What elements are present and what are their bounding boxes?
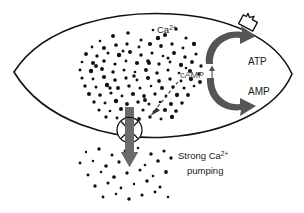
calcium-ion-dot — [156, 36, 160, 40]
calcium-ion-dot — [97, 108, 100, 111]
calcium-ion-dot — [116, 117, 119, 120]
calcium-ion-dot — [134, 71, 137, 74]
calcium-ion-dot — [154, 191, 157, 194]
calcium-ion-dot — [115, 193, 118, 196]
calcium-ion-dot — [144, 164, 147, 167]
calcium-ion-dot — [157, 79, 161, 83]
calcium-ion-dot — [169, 102, 173, 106]
calcium-ion-dot — [166, 68, 169, 71]
calcium-ion-dot — [92, 160, 95, 163]
calcium-ion-dot — [186, 93, 190, 97]
calcium-ion-dot — [159, 44, 163, 48]
calcium-ion-dot — [100, 67, 104, 71]
calcium-ion-dot — [114, 43, 118, 47]
calcium-ion-dot — [169, 61, 172, 64]
calcium-ion-dot — [102, 196, 105, 199]
calcium-ion-dot — [111, 34, 115, 38]
calcium-ion-dot — [125, 102, 129, 106]
calcium-ion-dot — [155, 71, 159, 75]
calcium-ion-dot — [111, 70, 114, 73]
calcium-ion-dot — [110, 153, 113, 156]
pumping-label-line2: pumping — [187, 165, 223, 176]
calcium-ion-dot — [158, 185, 161, 188]
cell-membrane-outline — [14, 14, 292, 138]
calcium-ion-dot — [166, 56, 169, 59]
calcium-ion-dot — [104, 164, 108, 168]
calcium-ion-dot — [168, 77, 171, 80]
calcium-ion-dot — [128, 50, 132, 54]
calcium-ion-dot — [147, 61, 151, 65]
calcium-ion-dot — [136, 79, 139, 82]
calcium-ion-dot — [104, 115, 107, 118]
calcium-ion-dot — [174, 109, 178, 113]
cell-signaling-diagram: Ca2+ ATP AMP cAMP — [0, 0, 304, 213]
calcium-ion-dot — [148, 42, 152, 46]
calcium-ion-dot — [167, 196, 170, 199]
camp-label: cAMP — [180, 70, 204, 80]
calcium-ion-dot — [102, 59, 106, 63]
calcium-ion-dot — [98, 93, 102, 97]
atp-label: ATP — [248, 56, 267, 67]
calcium-ion-dot — [190, 60, 194, 64]
calcium-ion-dot — [113, 78, 117, 82]
calcium-ion-dot — [81, 61, 84, 64]
calcium-ion-dot — [198, 80, 202, 84]
calcium-ion-dot — [80, 76, 83, 79]
calcium-ion-dot — [121, 49, 124, 52]
calcium-ion-dot — [170, 42, 173, 45]
calcium-ion-dot — [124, 76, 127, 79]
calcium-ion-dot — [157, 62, 160, 65]
calcium-ion-dot — [114, 99, 118, 103]
calcium-ion-dot — [180, 101, 184, 105]
calcium-ion-dot — [182, 86, 185, 89]
calcium-ion-dot — [144, 68, 148, 72]
calcium-ion-dot — [95, 86, 98, 89]
calcium-ion-dot — [193, 85, 196, 88]
calcium-ion-dot — [185, 67, 188, 70]
calcium-ion-dot — [91, 46, 94, 49]
calcium-ion-dot — [127, 197, 131, 201]
calcium-ion-dot — [169, 156, 172, 159]
calcium-ion-dot — [95, 54, 98, 57]
calcium-ion-dot — [89, 69, 93, 73]
calcium-ion-dot — [152, 175, 155, 178]
calcium-ion-dot — [106, 181, 109, 184]
calcium-ion-dot — [116, 86, 120, 90]
calcium-ion-dot — [139, 53, 143, 57]
calcium-ion-dot — [183, 55, 187, 59]
calcium-ion-dot — [108, 86, 111, 89]
calcium-ion-dot — [142, 94, 146, 98]
calcium-ion-dot — [120, 187, 123, 190]
calcium-ion-dot — [94, 64, 98, 68]
calcium-ion-dot — [126, 31, 130, 35]
calcium-ion-dot — [140, 193, 143, 196]
calcium-ion-dot — [87, 174, 90, 177]
calcium-ion-dot — [179, 63, 183, 67]
calcium-ion-dot — [127, 84, 131, 88]
calcium-ion-dot — [105, 83, 109, 87]
calcium-ion-dot — [132, 74, 136, 78]
calcium-ion-dot — [121, 95, 124, 98]
calcium-ion-dot — [87, 92, 91, 96]
calcium-ion-dot — [148, 115, 151, 118]
calcium-ion-dot — [133, 183, 135, 185]
calcium-ion-dot — [85, 151, 87, 153]
calcium-ion-dot — [164, 170, 168, 174]
calcium-ion-dot — [117, 160, 120, 163]
calcium-ion-dot — [112, 175, 116, 179]
calcium-ion-dot — [117, 53, 121, 57]
calcium-ion-dot — [199, 64, 202, 67]
calcium-ion-dot — [83, 84, 86, 87]
calcium-ion-dot — [122, 68, 125, 71]
calcium-ion-dot — [97, 147, 100, 150]
calcium-ion-dot — [145, 179, 149, 183]
calcium-ion-dot — [99, 40, 102, 43]
flux-arrow-head-overlay — [121, 152, 138, 167]
calcium-ion-dot — [79, 69, 82, 72]
calcium-ion-dot — [113, 62, 116, 65]
calcium-ion-dot — [150, 51, 153, 54]
calcium-ion-dot — [162, 149, 165, 152]
calcium-ion-dot — [119, 107, 123, 111]
calcium-ion-dot — [172, 51, 176, 55]
calcium-ion-dot — [194, 52, 197, 55]
